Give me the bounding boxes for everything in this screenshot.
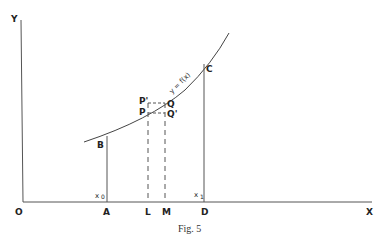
- point-label-P: P: [139, 107, 146, 117]
- figure-caption: Fig. 5: [178, 223, 201, 234]
- y-axis-label: Y: [10, 14, 18, 24]
- point-label-Q: Q: [167, 99, 175, 109]
- point-label-P-prime: P': [139, 96, 148, 106]
- bound-x0-subscript: 0: [101, 193, 105, 200]
- bound-x0: x: [95, 192, 99, 200]
- point-label-L: L: [145, 207, 151, 217]
- y-axis: [21, 20, 23, 202]
- bound-x1-subscript: 1: [200, 193, 204, 200]
- curve-f-of-x: [84, 33, 229, 142]
- point-label-A: A: [103, 207, 110, 217]
- point-label-C: C: [206, 64, 213, 74]
- bound-x1: x: [194, 191, 198, 199]
- point-label-M: M: [162, 207, 171, 217]
- point-label-D: D: [201, 207, 208, 217]
- curve-label: y = f(x): [168, 71, 193, 96]
- point-label-B: B: [97, 140, 104, 150]
- x-axis-label: X: [366, 207, 373, 217]
- origin-label: O: [15, 207, 23, 217]
- point-label-Q-prime: Q': [167, 109, 177, 119]
- diagram-canvas: Y X O A L M D x 0 x 1 B C P' P Q Q' y = …: [0, 0, 387, 246]
